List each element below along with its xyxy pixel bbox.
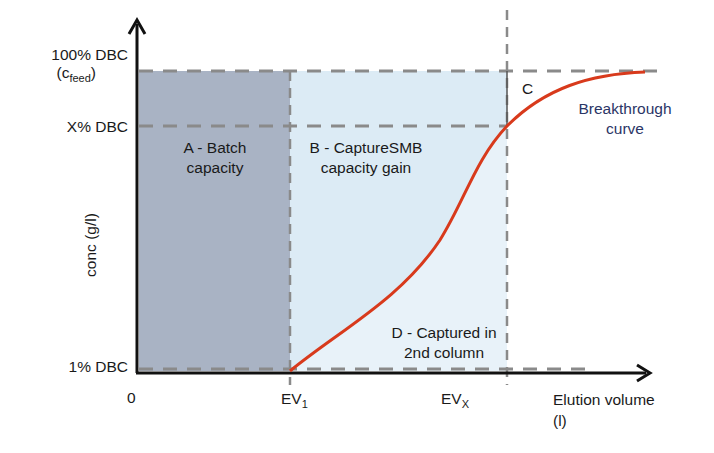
region-a-fill	[139, 71, 290, 371]
region-b-line2: capacity gain	[300, 159, 432, 177]
region-a-line1: A - Batch	[160, 139, 270, 157]
region-a-line2: capacity	[160, 159, 270, 177]
x-axis-title-line1: Elution volume	[553, 391, 655, 409]
x-axis-title: Elution volume (l)	[553, 391, 655, 430]
ev1-label: EV	[281, 390, 302, 407]
y-axis-title: conc (g/l)	[82, 200, 100, 290]
x-axis-title-line2: (l)	[553, 412, 655, 430]
region-b-line1: B - CaptureSMB	[300, 139, 432, 157]
evx-label: EV	[441, 390, 462, 407]
y-tick-x-dbc: X% DBC	[10, 118, 128, 136]
ev1-sub: 1	[302, 398, 308, 410]
cfeed-prefix: (c	[56, 64, 69, 81]
region-c-label: C	[522, 80, 533, 98]
region-d-line1: D - Captured in	[380, 324, 508, 342]
region-a-label: A - Batch capacity	[160, 139, 270, 177]
x-tick-evx: EVX	[441, 390, 469, 408]
region-d-label: D - Captured in 2nd column	[380, 324, 508, 362]
evx-sub: X	[462, 398, 469, 410]
curve-label: Breakthrough curve	[562, 100, 688, 138]
curve-label-line2: curve	[562, 120, 688, 138]
cfeed-suffix: )	[91, 64, 96, 81]
region-d-line2: 2nd column	[380, 344, 508, 362]
y-tick-100-dbc-label: 100% DBC	[10, 46, 128, 64]
curve-label-line1: Breakthrough	[562, 100, 688, 118]
region-b-label: B - CaptureSMB capacity gain	[300, 139, 432, 177]
cfeed-sub: feed	[69, 72, 90, 84]
y-tick-1-dbc: 1% DBC	[10, 358, 128, 376]
y-tick-100-dbc: 100% DBC (cfeed)	[10, 46, 128, 82]
x-tick-ev1: EV1	[281, 390, 308, 408]
y-tick-cfeed-label: (cfeed)	[10, 64, 128, 82]
x-tick-0: 0	[127, 389, 136, 407]
